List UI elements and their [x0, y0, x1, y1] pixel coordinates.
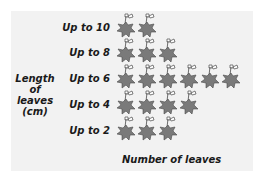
y-axis-label-line: (cm): [13, 106, 57, 117]
row-label: Up to 2: [58, 125, 110, 137]
row-label: Up to 6: [58, 73, 110, 85]
leaf-icon: [158, 116, 179, 142]
leaf-icon: [200, 64, 221, 90]
leaf-icon: [137, 90, 158, 116]
leaf-icon: [137, 116, 158, 142]
row-label: Up to 10: [58, 22, 110, 34]
leaf-icon: [179, 90, 200, 116]
leaf-icon-group: [116, 116, 179, 142]
leaf-icon: [158, 90, 179, 116]
leaf-icon: [116, 13, 137, 39]
leaf-icon: [158, 38, 179, 64]
leaf-icon-group: [116, 13, 158, 39]
y-axis-label-line: of: [13, 84, 57, 95]
y-axis-label-line: Length: [13, 73, 57, 84]
y-axis-label: Length of leaves (cm): [13, 73, 57, 117]
leaf-icon-group: [116, 64, 242, 90]
row-label: Up to 8: [58, 47, 110, 59]
leaf-icon: [116, 64, 137, 90]
leaf-icon: [137, 64, 158, 90]
leaf-icon-group: [116, 90, 200, 116]
leaf-icon: [158, 64, 179, 90]
y-axis-label-line: leaves: [13, 95, 57, 106]
leaf-icon: [116, 116, 137, 142]
leaf-icon: [179, 64, 200, 90]
row-label: Up to 4: [58, 99, 110, 111]
leaf-icon: [137, 38, 158, 64]
leaf-icon: [221, 64, 242, 90]
leaf-icon: [116, 38, 137, 64]
leaf-icon: [137, 13, 158, 39]
leaf-icon-group: [116, 38, 179, 64]
leaf-icon: [116, 90, 137, 116]
x-axis-label: Number of leaves: [122, 154, 221, 165]
